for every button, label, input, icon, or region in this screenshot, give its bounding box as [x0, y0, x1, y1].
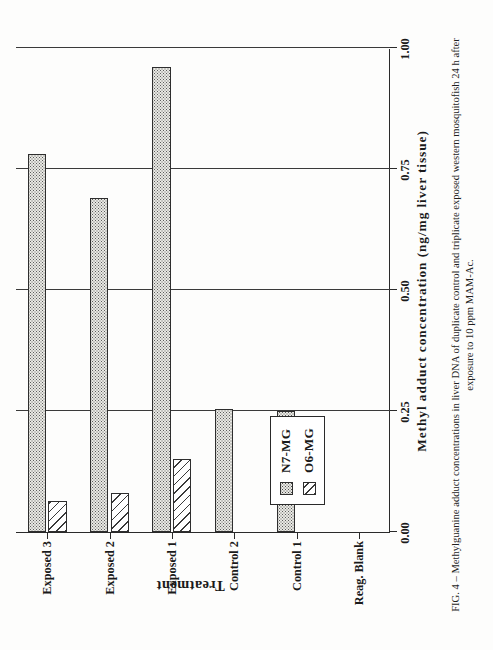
- bar-n7mg: [152, 67, 170, 532]
- value-tick-label: 0.75: [398, 159, 413, 181]
- value-tick: [390, 289, 397, 290]
- bar-n7mg: [89, 198, 107, 532]
- value-axis-title: Methyl adduct concentration (ng/mg liver…: [414, 49, 430, 533]
- legend-swatch-o6mg: [302, 482, 315, 495]
- figure-caption: FIG. 4 – Methylguanine adduct concentrat…: [449, 25, 477, 625]
- legend-item-n7mg: N7-MG: [278, 428, 294, 495]
- plot-right-edge: [16, 47, 390, 48]
- value-tick-label: 0.00: [398, 522, 413, 544]
- bar-o6mg: [110, 493, 128, 532]
- figure-caption-area: FIG. 4 – Methylguanine adduct concentrat…: [435, 0, 491, 650]
- category-tick: [234, 532, 235, 539]
- category-tick: [47, 532, 48, 539]
- legend-label-n7mg: N7-MG: [278, 429, 294, 473]
- value-tick-label: 0.25: [398, 401, 413, 423]
- category-tick: [171, 532, 172, 539]
- gridline: [16, 410, 390, 411]
- legend-swatch-n7mg: [279, 482, 292, 495]
- category-tick: [109, 532, 110, 539]
- legend-item-o6mg: O6-MG: [301, 428, 317, 495]
- bar-n7mg: [214, 409, 232, 532]
- value-tick: [390, 531, 397, 532]
- bar-n7mg: [27, 154, 45, 532]
- legend-label-o6mg: O6-MG: [301, 428, 317, 473]
- plot-area: Reag. BlankControl 1Control 2Exposed 1Ex…: [2, 25, 432, 625]
- value-tick: [390, 47, 397, 48]
- chart-figure: Reag. BlankControl 1Control 2Exposed 1Ex…: [2, 25, 432, 625]
- value-tick-label: 0.50: [398, 280, 413, 302]
- category-tick: [296, 532, 297, 539]
- category-axis-title: Treatment: [110, 577, 270, 594]
- category-tick-label: Exposed 3: [39, 541, 54, 625]
- gridline: [16, 289, 390, 290]
- chart-legend: N7-MG O6-MG: [270, 416, 325, 505]
- value-tick: [390, 410, 397, 411]
- value-tick: [390, 168, 397, 169]
- bar-o6mg: [173, 459, 191, 532]
- gridline: [16, 168, 390, 169]
- category-tick-label: Control 1: [289, 541, 304, 625]
- bar-o6mg: [48, 501, 66, 532]
- figure-page: Reag. BlankControl 1Control 2Exposed 1Ex…: [0, 0, 493, 650]
- plot-axes-box: [16, 49, 390, 533]
- category-tick-label: Reag. Blank: [351, 541, 366, 625]
- value-tick-label: 1.00: [398, 38, 413, 60]
- category-tick: [358, 532, 359, 539]
